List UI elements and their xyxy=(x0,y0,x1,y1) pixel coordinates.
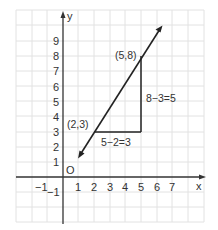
x-tick-5: 5 xyxy=(138,181,144,193)
y-tick-neg1: −1 xyxy=(47,186,60,198)
y-axis-arrow-icon xyxy=(61,11,66,18)
line-arrow-bottom-icon xyxy=(78,151,85,159)
x-tick-4: 4 xyxy=(122,181,128,193)
x-tick-1: 1 xyxy=(75,181,81,193)
run-annotation: 5−2=3 xyxy=(101,136,131,148)
y-tick-6: 6 xyxy=(53,81,59,93)
origin-label: O xyxy=(66,164,75,176)
y-tick-7: 7 xyxy=(53,65,59,77)
y-tick-2: 2 xyxy=(53,141,59,153)
coordinate-plane: y x O 9 8 7 6 5 4 3 2 1 −1 −1 1 2 3 4 5 … xyxy=(0,0,218,230)
x-tick-3: 3 xyxy=(107,181,113,193)
rise-annotation: 8−3=5 xyxy=(146,92,176,104)
y-tick-1: 1 xyxy=(53,156,59,168)
y-tick-5: 5 xyxy=(53,96,59,108)
point-label-5-8: (5,8) xyxy=(115,49,137,61)
y-tick-4: 4 xyxy=(53,111,59,123)
y-tick-8: 8 xyxy=(53,50,59,62)
x-tick-2: 2 xyxy=(91,181,97,193)
y-tick-3: 3 xyxy=(53,126,59,138)
x-axis-arrow-icon xyxy=(199,175,206,180)
x-tick-7: 7 xyxy=(169,181,175,193)
point-label-2-3: (2,3) xyxy=(67,118,89,130)
x-axis-label: x xyxy=(196,180,202,192)
x-tick-6: 6 xyxy=(154,181,160,193)
y-axis-label: y xyxy=(67,10,73,22)
x-tick-neg1: −1 xyxy=(35,181,48,193)
y-tick-9: 9 xyxy=(53,35,59,47)
